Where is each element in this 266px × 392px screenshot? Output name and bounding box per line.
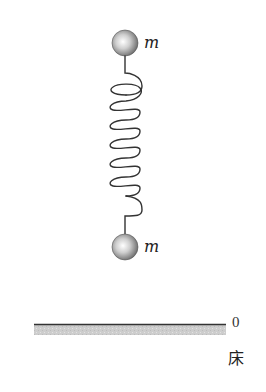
- bottom-mass-label: m: [144, 237, 159, 256]
- bottom-mass: [112, 234, 138, 260]
- floor-band: [34, 325, 226, 335]
- spring-coils: [110, 84, 141, 196]
- floor: [34, 325, 226, 336]
- top-mass: [112, 30, 138, 56]
- spring-mass-diagram: m m 0 床: [0, 0, 266, 392]
- mass-ball: [112, 30, 138, 56]
- spring-bottom-lead: [125, 196, 142, 234]
- floor-label: 床: [228, 349, 244, 368]
- spring: [110, 56, 142, 234]
- spring-top-lead: [125, 56, 142, 95]
- height-zero-label: 0: [232, 314, 240, 330]
- top-mass-label: m: [144, 33, 159, 52]
- mass-ball: [112, 234, 138, 260]
